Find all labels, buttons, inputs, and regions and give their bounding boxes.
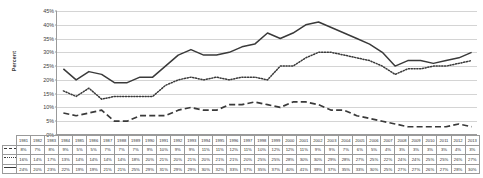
y-axis-tick-label: 10% [43,104,57,110]
table-year-header: 1981 [17,136,31,146]
table-cell: 28% [283,155,297,165]
table-cell: 14% [87,155,101,165]
table-year-header: 2012 [451,136,465,146]
table-cell: 21% [227,155,241,165]
table-year-header: 2002 [311,136,325,146]
table-year-header: 1997 [241,136,255,146]
legend-entry-aggravated[interactable]: Aggravated [3,145,17,155]
table-cell: 10% [255,145,269,155]
table-cell: 3% [409,145,423,155]
table-year-header: 1983 [45,136,59,146]
table-cell: 19% [73,164,87,174]
table-cell: 11% [297,145,311,155]
table-year-header: 1986 [87,136,101,146]
table-cell: 8% [17,145,31,155]
table-cell: 25% [129,164,143,174]
table-year-header: 2011 [437,136,451,146]
table-cell: 20% [31,164,45,174]
y-axis-tick-label: 35% [43,36,57,42]
legend-entry-overall[interactable]: Overall [3,164,17,174]
table-row: Aggravated8%7%8%9%5%5%7%7%7%9%10%9%9%11%… [3,145,480,155]
table-cell: 9% [325,145,339,155]
table-year-header: 1996 [227,136,241,146]
table-cell: 27% [437,164,451,174]
table-cell: 25% [437,155,451,165]
table-cell: 9% [311,145,325,155]
table-cell: 3% [465,145,479,155]
series-line-overall [63,22,471,83]
table-cell: 37% [325,164,339,174]
table-body: Aggravated8%7%8%9%5%5%7%7%7%9%10%9%9%11%… [3,145,480,174]
table-year-header: 2001 [297,136,311,146]
table-cell: 25% [381,164,395,174]
table-cell: 32% [213,164,227,174]
table-cell: 12% [227,145,241,155]
table-cell: 11% [241,145,255,155]
table-year-header: 2009 [409,136,423,146]
table-cell: 30% [465,164,479,174]
table-cell: 9% [143,145,157,155]
table-year-header: 1987 [101,136,115,146]
table-cell: 11% [213,145,227,155]
y-axis-tick-label: 45% [43,8,57,14]
y-axis-tick-label: 5% [46,118,57,124]
table-cell: 27% [465,155,479,165]
table-cell: 20% [241,155,255,165]
table-cell: 20% [143,155,157,165]
table-cell: 20% [171,155,185,165]
table-cell: 7% [129,145,143,155]
table-cell: 9% [59,145,73,155]
table-cell: 26% [423,164,437,174]
table-cell: 25% [255,155,269,165]
y-axis-tick-label: 40% [43,22,57,28]
table-cell: 17% [45,155,59,165]
table-cell: 24% [17,164,31,174]
table-cell: 12% [283,145,297,155]
table-cell: 27% [353,155,367,165]
table-cell: 23% [45,164,59,174]
table-cell: 21% [115,164,129,174]
table-cell: 9% [171,145,185,155]
table-cell: 14% [101,155,115,165]
legend-entry-mitigated[interactable]: Mitigated [3,155,17,165]
table-cell: 10% [157,145,171,155]
table-cell: 33% [227,164,241,174]
table-year-header: 1999 [269,136,283,146]
table-cell: 37% [241,164,255,174]
table-cell: 27% [395,164,409,174]
table-cell: 20% [199,155,213,165]
table-cell: 14% [31,155,45,165]
table-cell: 31% [157,164,171,174]
table-year-header: 1991 [157,136,171,146]
table-cell: 3% [423,145,437,155]
table-cell: 3% [437,145,451,155]
table-year-header: 1992 [171,136,185,146]
table-cell: 13% [59,155,73,165]
table-year-header: 2000 [283,136,297,146]
chart-container: Percent 0%5%10%15%20%25%30%35%40%45% 198… [0,0,483,178]
table-cell: 41% [297,164,311,174]
table-cell: 29% [143,164,157,174]
table-cell: 18% [129,155,143,165]
table-cell: 30% [199,164,213,174]
y-axis-tick-label: 15% [43,91,57,97]
table-year-header: 2010 [423,136,437,146]
table-cell: 25% [367,155,381,165]
table-cell: 5% [87,145,101,155]
series-line-aggravated [63,102,471,127]
table-cell: 29% [185,164,199,174]
table-cell: 7% [115,145,129,155]
table-cell: 4% [451,145,465,155]
table-cell: 11% [199,145,213,155]
table-cell: 40% [283,164,297,174]
y-axis-title: Percent [11,31,17,91]
table-cell: 26% [451,155,465,165]
table-cell: 39% [311,164,325,174]
table-cell: 14% [115,155,129,165]
table-year-header: 1985 [73,136,87,146]
table-cell: 37% [269,164,283,174]
table-cell: 21% [157,155,171,165]
y-axis-tick-label: 20% [43,77,57,83]
dashed-line-swatch-icon [4,148,17,153]
plot-area: 0%5%10%15%20%25%30%35%40%45% [56,11,477,135]
